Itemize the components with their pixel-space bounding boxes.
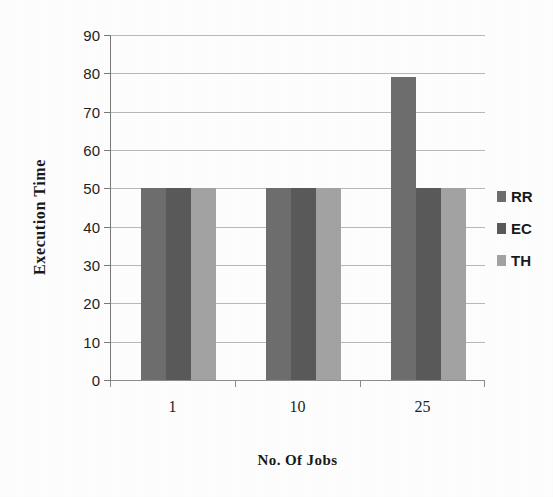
bar-rr-1 [141,188,166,380]
x-axis-tick-marks [110,380,485,390]
y-axis-tick-label: 90 [40,27,100,44]
y-axis-tick-mark [104,265,111,266]
gridline [110,73,485,74]
x-axis-tick-mark [235,380,236,387]
x-axis-tick-mark [360,380,361,387]
x-axis-tick-label-25: 25 [415,398,431,416]
y-axis-tick-label: 80 [40,65,100,82]
plot-area [110,35,485,380]
gridline [110,150,485,151]
y-axis-tick-mark [104,35,111,36]
x-axis-tick-labels: 11025 [110,398,485,424]
y-axis-tick-mark [104,112,111,113]
x-axis-title: No. Of Jobs [110,452,485,469]
y-axis-tick-mark [104,150,111,151]
bar-ec-1 [166,188,191,380]
bar-th-10 [316,188,341,380]
legend-swatch-icon [497,223,506,234]
y-axis-tick-label: 20 [40,295,100,312]
legend-label: EC [511,221,532,236]
legend-label: RR [511,189,533,204]
y-axis-tick-label: 40 [40,218,100,235]
y-axis-tick-label: 70 [40,103,100,120]
gridline [110,112,485,113]
bar-rr-10 [266,188,291,380]
legend-item-rr: RR [497,180,549,212]
legend-item-th: TH [497,244,549,276]
y-axis-tick-mark [104,303,111,304]
y-axis-tick-mark [104,73,111,74]
bar-ec-25 [416,188,441,380]
bar-rr-25 [391,77,416,380]
y-axis-tick-mark [104,342,111,343]
y-axis-tick-mark [104,380,111,381]
y-axis-tick-mark [104,227,111,228]
bar-chart-figure: Execution Time 0102030405060708090 11025… [0,0,553,497]
y-axis-tick-mark [104,188,111,189]
bar-th-25 [441,188,466,380]
y-axis-tick-label: 0 [40,372,100,389]
y-axis-tick-labels: 0102030405060708090 [28,35,100,381]
gridline [110,35,485,36]
legend-swatch-icon [497,191,506,202]
chart-legend: RRECTH [497,180,549,276]
x-axis-tick-mark [484,380,485,387]
y-axis-tick-label: 10 [40,333,100,350]
y-axis-tick-label: 60 [40,142,100,159]
bar-th-1 [191,188,216,380]
legend-label: TH [511,253,531,268]
legend-swatch-icon [497,255,506,266]
y-axis-tick-label: 30 [40,257,100,274]
legend-item-ec: EC [497,212,549,244]
y-axis-tick-label: 50 [40,180,100,197]
x-axis-tick-mark [110,380,111,387]
bar-ec-10 [291,188,316,380]
x-axis-tick-label-10: 10 [290,398,306,416]
x-axis-tick-label-1: 1 [169,398,177,416]
